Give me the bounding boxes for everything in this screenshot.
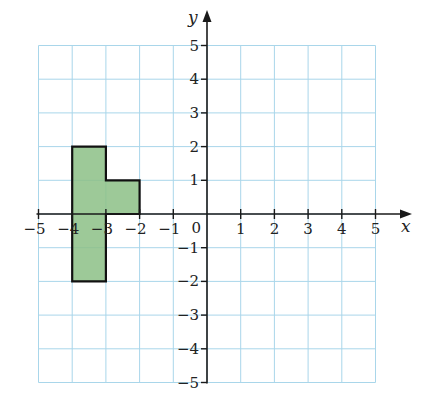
x-tick-label: −3 (91, 220, 113, 238)
origin-label: 0 (191, 219, 201, 237)
x-axis-label: x (401, 216, 411, 236)
y-axis-arrow-icon (203, 10, 212, 22)
x-tick-label: 4 (337, 220, 347, 238)
y-tick-label: −5 (177, 374, 199, 392)
y-axis-label: y (187, 7, 198, 27)
x-tick-label: −4 (57, 220, 79, 238)
x-tick-label: 3 (303, 220, 313, 238)
y-tick-label: −3 (177, 306, 199, 324)
y-tick-label: 1 (189, 171, 199, 189)
coordinate-plane: −5−4−3−2−112345−5−4−3−2−1123450xy (0, 0, 437, 396)
x-tick-label: 5 (371, 220, 381, 238)
y-tick-label: 4 (189, 70, 199, 88)
y-tick-label: −4 (177, 340, 199, 358)
x-tick-label: 2 (270, 220, 280, 238)
x-tick-label: −1 (158, 220, 180, 238)
y-tick-label: 2 (189, 138, 199, 156)
y-tick-label: −1 (177, 239, 199, 257)
x-tick-label: −5 (23, 220, 45, 238)
y-tick-label: 3 (189, 104, 199, 122)
y-tick-label: 5 (189, 37, 199, 55)
y-tick-label: −2 (177, 272, 199, 290)
x-tick-label: −2 (125, 220, 147, 238)
x-tick-label: 1 (236, 220, 246, 238)
